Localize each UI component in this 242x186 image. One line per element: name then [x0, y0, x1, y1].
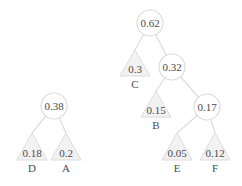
- leaf-value: 0.12: [205, 147, 224, 159]
- leaf-label: C: [131, 78, 138, 90]
- leaf-label: F: [212, 162, 218, 174]
- leaf-label: E: [174, 162, 181, 174]
- leaf-F: 0.12F: [200, 133, 230, 174]
- leaf-A: 0.2A: [51, 133, 81, 174]
- leaf-C: 0.3C: [120, 50, 150, 90]
- node-n062: 0.62: [137, 10, 163, 36]
- node-value: 0.62: [140, 17, 159, 29]
- leaf-label: A: [62, 162, 70, 174]
- leaf-value: 0.3: [128, 63, 142, 75]
- leaf-E: 0.05E: [162, 133, 192, 174]
- node-value: 0.38: [44, 100, 64, 112]
- node-n017: 0.17: [194, 94, 220, 120]
- leaf-value: 0.15: [146, 104, 166, 116]
- node-value: 0.17: [197, 101, 217, 113]
- leaf-value: 0.2: [59, 147, 73, 159]
- huffman-forest-diagram: 0.18D0.2A0.3C0.15B0.05E0.12F 0.380.620.3…: [0, 0, 242, 186]
- leaf-value: 0.18: [22, 147, 42, 159]
- leaf-D: 0.18D: [17, 133, 47, 174]
- leaf-label: D: [28, 162, 36, 174]
- leaf-label: B: [152, 119, 159, 131]
- node-n032: 0.32: [159, 54, 185, 80]
- node-n038: 0.38: [41, 93, 67, 119]
- leaf-value: 0.05: [167, 147, 187, 159]
- node-value: 0.32: [162, 61, 181, 73]
- leaf-B: 0.15B: [141, 91, 171, 131]
